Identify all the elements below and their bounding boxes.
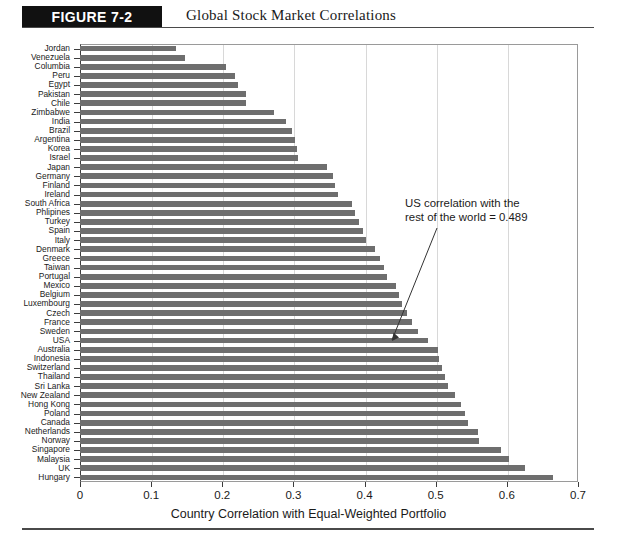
header-divider	[22, 27, 594, 28]
bar	[80, 447, 501, 453]
bar	[80, 265, 384, 271]
bar-row	[80, 128, 578, 134]
category-label: Japan	[47, 163, 70, 172]
category-label: Singapore	[32, 445, 70, 454]
bar-series	[80, 44, 578, 482]
category-label: Spain	[49, 226, 70, 235]
category-label: Sri Lanka	[35, 382, 70, 391]
category-label: Israel	[50, 153, 70, 162]
bar	[80, 383, 448, 389]
bar	[80, 365, 442, 371]
bar	[80, 201, 352, 207]
bar-row	[80, 383, 578, 389]
bar	[80, 110, 274, 116]
annotation-text: US correlation with the rest of the worl…	[405, 196, 528, 224]
bar	[80, 237, 366, 243]
bar	[80, 429, 478, 435]
bar-row	[80, 475, 578, 481]
bar-row	[80, 456, 578, 462]
bar	[80, 475, 553, 481]
bar-row	[80, 73, 578, 79]
category-label: Hungary	[38, 473, 70, 482]
x-axis-tick-label: 0	[77, 489, 83, 501]
category-label: Malaysia	[37, 455, 70, 464]
bar	[80, 137, 295, 143]
bar	[80, 100, 246, 106]
x-axis-tick-label: 0.5	[428, 489, 444, 501]
bar	[80, 411, 465, 417]
bar-row	[80, 420, 578, 426]
bar	[80, 183, 335, 189]
bar-row	[80, 338, 578, 344]
bar-row	[80, 429, 578, 435]
bar	[80, 210, 355, 216]
category-label: New Zealand	[21, 391, 70, 400]
x-axis-tick	[578, 482, 579, 487]
bar	[80, 256, 380, 262]
bar-row	[80, 64, 578, 70]
bar-row	[80, 265, 578, 271]
category-label: Italy	[55, 236, 70, 245]
bar	[80, 46, 176, 52]
bar-row	[80, 365, 578, 371]
x-axis-tick	[151, 482, 152, 487]
bar-row	[80, 228, 578, 234]
bar	[80, 73, 235, 79]
bar-row	[80, 301, 578, 307]
x-axis-tick	[365, 482, 366, 487]
figure-title: Global Stock Market Correlations	[186, 7, 396, 24]
bar	[80, 456, 509, 462]
bar	[80, 219, 359, 225]
x-axis-tick	[436, 482, 437, 487]
bar-row	[80, 411, 578, 417]
bar-row	[80, 119, 578, 125]
bar	[80, 91, 246, 97]
bar	[80, 356, 439, 362]
bar	[80, 301, 402, 307]
bar	[80, 319, 412, 325]
bar	[80, 155, 298, 161]
bar-row	[80, 310, 578, 316]
category-label: UK	[58, 464, 70, 473]
bar-row	[80, 438, 578, 444]
bar-row	[80, 447, 578, 453]
bar	[80, 402, 461, 408]
bar-row	[80, 183, 578, 189]
category-label: Czech	[46, 309, 70, 318]
bar-row	[80, 402, 578, 408]
annotation-line-1: US correlation with the	[405, 196, 528, 210]
bar-row	[80, 155, 578, 161]
bar	[80, 128, 292, 134]
bar	[80, 338, 428, 344]
bar	[80, 82, 238, 88]
bar	[80, 192, 338, 198]
bar	[80, 146, 297, 152]
x-axis-tick	[80, 482, 81, 487]
bar-row	[80, 173, 578, 179]
bar-row	[80, 356, 578, 362]
x-axis-tick	[293, 482, 294, 487]
bar-row	[80, 100, 578, 106]
x-axis-tick-label: 0.2	[214, 489, 230, 501]
bar-row	[80, 146, 578, 152]
bar	[80, 228, 363, 234]
bar-row	[80, 55, 578, 61]
bar-row	[80, 347, 578, 353]
bar-row	[80, 82, 578, 88]
bar	[80, 420, 468, 426]
x-axis-tick-label: 0.7	[570, 489, 586, 501]
bar-row	[80, 237, 578, 243]
bar	[80, 164, 327, 170]
bar	[80, 173, 333, 179]
bar-row	[80, 465, 578, 471]
bar-row	[80, 110, 578, 116]
category-label: Luxembourg	[23, 299, 70, 308]
x-axis-tick-label: 0.6	[499, 489, 515, 501]
bar-row	[80, 274, 578, 280]
bar-row	[80, 246, 578, 252]
x-axis-title: Country Correlation with Equal-Weighted …	[0, 507, 617, 521]
category-label: Denmark	[36, 245, 70, 254]
bar	[80, 55, 185, 61]
bar-row	[80, 319, 578, 325]
bar-row	[80, 137, 578, 143]
